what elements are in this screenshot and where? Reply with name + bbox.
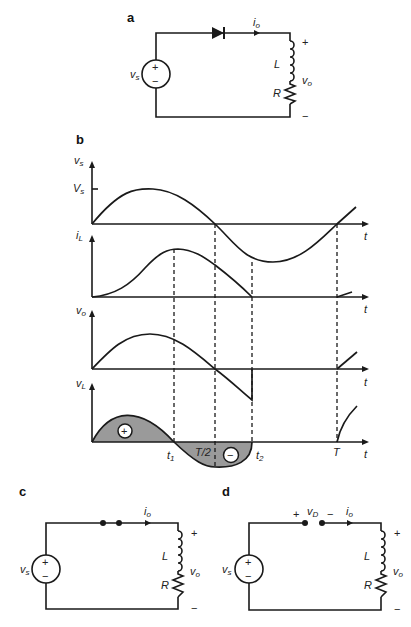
panel-label-a: a (127, 10, 135, 25)
output-minus: − (394, 603, 400, 615)
current-arrow-icon (145, 520, 151, 526)
source-label: vs (130, 68, 140, 82)
inductor-icon (178, 531, 182, 571)
panel-label-b: b (76, 132, 84, 147)
circuit-c: c io + − vs L R + vo − (19, 484, 201, 614)
panel-label-d: d (222, 484, 230, 499)
resistor-label: R (364, 579, 372, 591)
figure: a io + − vs L R + vo − b (0, 0, 411, 627)
arrow-right-icon (362, 439, 369, 445)
voltage-source-icon: + − (32, 555, 60, 583)
vl-axis-label: vL (76, 377, 86, 391)
circuit-a: a io + − vs L R + vo − (127, 10, 313, 122)
current-label: io (253, 16, 260, 30)
arrow-up-icon (89, 235, 95, 242)
output-label: vo (302, 74, 313, 88)
panel-label-c: c (19, 484, 26, 499)
resistor-icon (173, 571, 183, 597)
svg-text:−: − (152, 75, 158, 87)
vl-t-label: t (364, 448, 368, 460)
voltage-source-icon: + − (235, 555, 263, 583)
arrow-right-icon (362, 294, 369, 300)
switch-terminal-icon (116, 520, 122, 526)
current-label: io (144, 505, 151, 519)
vd-label: vD (307, 505, 319, 519)
inductor-label: L (162, 550, 168, 562)
svg-text:+: + (245, 556, 251, 568)
switch-terminal-icon (100, 520, 106, 526)
vo-axis-label: vo (76, 304, 87, 318)
svg-text:+: + (121, 425, 127, 437)
circuit-d: d + vD − io + − vs L R + vo − (222, 484, 404, 615)
resistor-label: R (273, 87, 281, 99)
output-label: vo (190, 565, 201, 579)
arrow-up-icon (89, 310, 95, 317)
inductor-label: L (274, 58, 280, 70)
output-plus: + (394, 527, 400, 539)
output-plus: + (191, 527, 197, 539)
vs-axis-label: vs (74, 154, 84, 168)
arrow-up-icon (89, 383, 95, 390)
svg-text:−: − (42, 570, 48, 582)
inductor-label: L (364, 550, 370, 562)
resistor-label: R (161, 579, 169, 591)
vs-waveform (92, 189, 356, 262)
plus-circle-icon: + (118, 424, 132, 438)
svg-text:−: − (227, 449, 233, 461)
switch-terminal-icon (302, 520, 308, 526)
bottom-wire (46, 583, 178, 609)
t2-label: t2 (256, 449, 264, 463)
waveforms-b: b vs Vs t iL t vo t (73, 132, 369, 467)
vo-waveform (92, 334, 252, 400)
vs-peak-label: Vs (73, 182, 84, 196)
arrow-right-icon (362, 366, 369, 372)
minus-circle-icon: − (224, 448, 239, 463)
svg-text:+: + (42, 556, 48, 568)
diode-icon (212, 27, 224, 39)
resistor-icon (285, 81, 295, 104)
current-label: io (346, 505, 353, 519)
source-label: vs (222, 563, 232, 577)
il-axis-label: iL (76, 229, 83, 243)
vo-t-label: t (364, 376, 368, 388)
top-wire (46, 523, 178, 555)
top-wire-left (249, 523, 305, 555)
il-waveform (92, 249, 252, 297)
arrow-right-icon (362, 221, 369, 227)
resistor-icon (376, 571, 386, 597)
positive-area (92, 415, 174, 442)
top-wire-right (322, 523, 381, 531)
output-minus: − (191, 602, 197, 614)
vl-waveform-next (337, 406, 357, 442)
inductor-icon (290, 41, 294, 81)
bottom-wire (249, 583, 381, 610)
bottom-wire (156, 88, 290, 117)
inductor-icon (381, 531, 385, 571)
svg-text:+: + (152, 61, 158, 73)
voltage-source-icon: + − (142, 60, 170, 88)
output-label: vo (393, 565, 404, 579)
source-label: vs (20, 563, 30, 577)
current-arrow-icon (254, 30, 260, 36)
half-period-label: T/2 (195, 446, 211, 458)
T-label: T (333, 446, 341, 458)
vo-waveform-next (337, 352, 357, 369)
vd-minus: − (327, 508, 333, 520)
svg-text:−: − (245, 570, 251, 582)
switch-terminal-icon (319, 520, 325, 526)
vd-plus: + (293, 508, 299, 520)
output-plus: + (302, 36, 308, 48)
vs-t-label: t (364, 230, 368, 242)
il-t-label: t (364, 303, 368, 315)
arrow-up-icon (89, 161, 95, 168)
output-minus: − (302, 110, 308, 122)
t1-label: t1 (167, 449, 175, 463)
current-arrow-icon (347, 520, 353, 526)
